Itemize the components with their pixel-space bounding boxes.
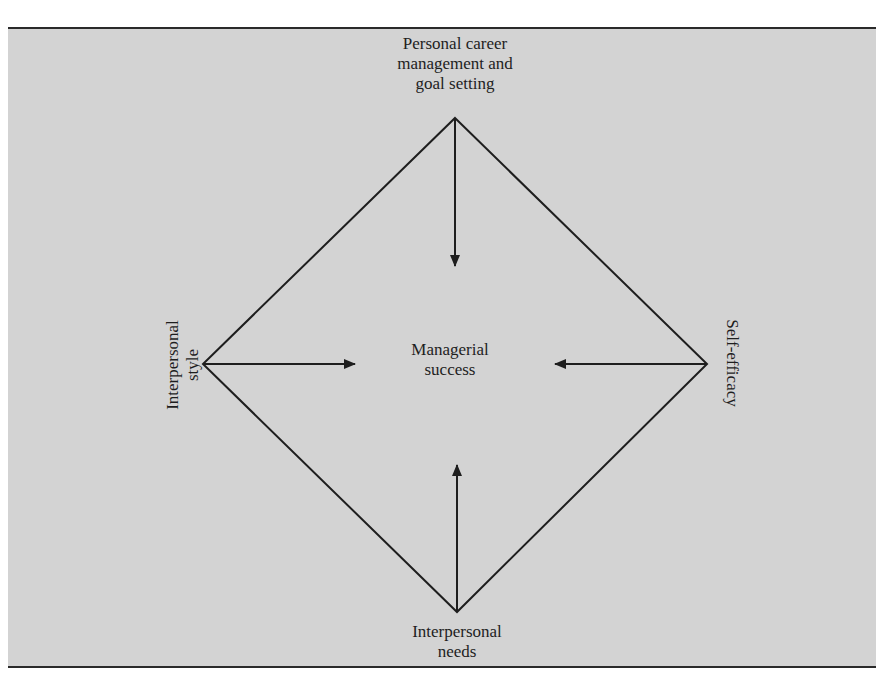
node-interpersonal-style: Interpersonal style — [163, 300, 203, 430]
node-personal-career-management: Personal career management and goal sett… — [355, 34, 555, 94]
node-managerial-success: Managerial success — [380, 340, 520, 380]
node-self-efficacy: Self-efficacy — [722, 303, 742, 423]
node-interpersonal-needs: Interpersonal needs — [357, 622, 557, 662]
